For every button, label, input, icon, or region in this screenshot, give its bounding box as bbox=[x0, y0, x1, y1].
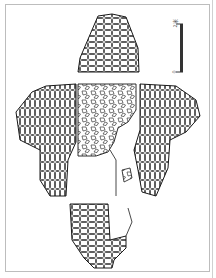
scale-bar-bottom-label: 0 bbox=[171, 70, 177, 73]
west-wing bbox=[16, 84, 76, 196]
scale-bar bbox=[176, 24, 183, 72]
scale-bar-top-label: 2米 bbox=[171, 19, 178, 27]
east-wing bbox=[134, 84, 200, 196]
south-wall-segment bbox=[70, 204, 132, 268]
north-wall-segment bbox=[78, 14, 139, 72]
central-rubble-area bbox=[78, 84, 136, 196]
masonry-plan-drawing bbox=[0, 0, 216, 278]
